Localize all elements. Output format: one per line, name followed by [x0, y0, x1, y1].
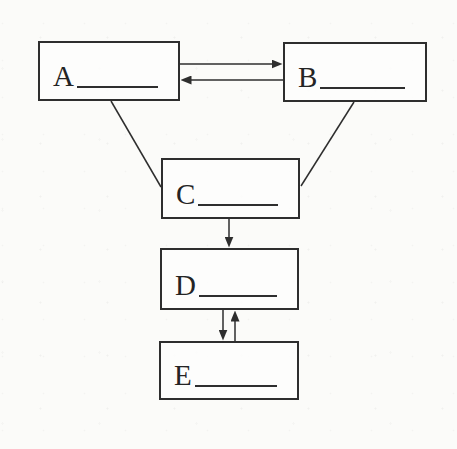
box-d: D [160, 248, 299, 310]
box-c-letter: C [176, 183, 195, 206]
box-a: A [38, 41, 180, 101]
diagram-canvas: A B C D E [0, 0, 457, 449]
box-e: E [159, 341, 299, 400]
box-e-letter: E [174, 364, 192, 387]
box-b: B [283, 42, 427, 102]
box-d-letter: D [175, 274, 196, 297]
box-b-letter: B [298, 66, 317, 89]
box-b-label: B [298, 66, 405, 89]
box-a-blank-line [77, 86, 158, 88]
box-a-letter: A [53, 65, 74, 88]
box-c: C [161, 158, 300, 219]
line-b-to-c [301, 102, 354, 186]
box-d-blank-line [199, 295, 277, 297]
box-d-label: D [175, 274, 277, 297]
box-a-label: A [53, 65, 158, 88]
box-c-blank-line [198, 204, 278, 206]
box-c-label: C [176, 183, 278, 206]
line-a-to-c [111, 101, 161, 187]
box-b-blank-line [320, 87, 405, 89]
box-e-label: E [174, 364, 277, 387]
box-e-blank-line [195, 385, 277, 387]
